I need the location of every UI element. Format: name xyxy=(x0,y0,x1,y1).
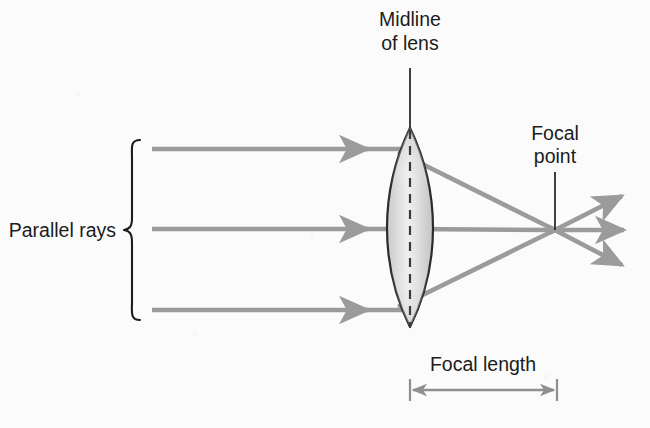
lens-ray-diagram: Parallel rays Midline of lens Focal poin… xyxy=(0,0,650,428)
focal-length-label: Focal length xyxy=(430,353,536,375)
midline-label-line1: Midline xyxy=(379,8,441,30)
diagram-canvas: Parallel rays Midline of lens Focal poin… xyxy=(0,0,650,428)
focal-length-dimension xyxy=(410,379,557,401)
diverging-ray-lower xyxy=(549,227,622,265)
parallel-rays-label: Parallel rays xyxy=(9,219,117,241)
incoming-rays xyxy=(152,149,368,310)
midline-label-line2: of lens xyxy=(381,32,439,54)
parallel-rays-brace xyxy=(124,140,140,320)
focal-point-label-line1: Focal xyxy=(531,122,579,144)
diverging-ray-upper xyxy=(549,196,622,233)
focal-point-label-line2: point xyxy=(534,145,577,167)
diverging-rays xyxy=(549,196,624,265)
